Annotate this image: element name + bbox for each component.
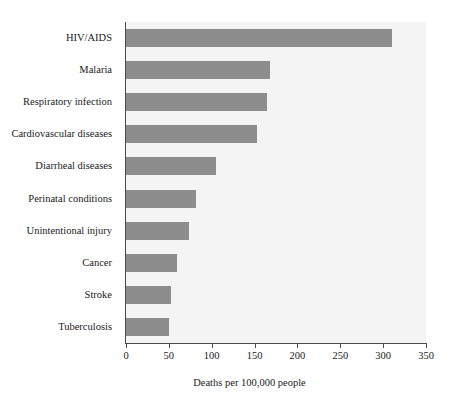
tick-mark <box>340 343 341 348</box>
category-label: Cancer <box>82 257 112 269</box>
bars-layer <box>126 22 426 343</box>
bar-row <box>126 311 426 343</box>
category-label: Stroke <box>85 289 112 301</box>
bar <box>126 157 216 175</box>
category-label: Malaria <box>79 64 112 76</box>
category-labels: HIV/AIDSMalariaRespiratory infectionCard… <box>0 22 120 343</box>
x-axis-title: Deaths per 100,000 people <box>0 376 475 389</box>
tick-label: 150 <box>247 350 263 362</box>
bar <box>126 286 171 304</box>
category-label: HIV/AIDS <box>66 32 112 44</box>
y-axis-spine <box>125 22 126 343</box>
tick-mark <box>212 343 213 348</box>
bar <box>126 61 270 79</box>
category-label: Perinatal conditions <box>28 193 112 205</box>
bar-row <box>126 183 426 215</box>
bar-row <box>126 247 426 279</box>
bar <box>126 93 267 111</box>
tick-mark <box>255 343 256 348</box>
bar-row <box>126 279 426 311</box>
tick-label: 100 <box>204 350 220 362</box>
bar <box>126 318 169 336</box>
bar <box>126 125 257 143</box>
bar <box>126 190 196 208</box>
bar-row <box>126 22 426 54</box>
x-axis-title-text: Deaths per 100,000 people <box>193 376 306 389</box>
category-label: Respiratory infection <box>23 96 112 108</box>
bar-row <box>126 215 426 247</box>
bar-row <box>126 118 426 150</box>
tick-mark <box>297 343 298 348</box>
bar <box>126 254 177 272</box>
bar-row <box>126 54 426 86</box>
category-label: Cardiovascular diseases <box>11 128 112 140</box>
tick-mark <box>126 343 127 348</box>
category-label: Diarrheal diseases <box>35 160 112 172</box>
tick-mark <box>383 343 384 348</box>
bar-chart: HIV/AIDSMalariaRespiratory infectionCard… <box>0 0 475 407</box>
tick-label: 200 <box>290 350 306 362</box>
category-label: Unintentional injury <box>27 225 112 237</box>
bar-row <box>126 150 426 182</box>
tick-label: 350 <box>418 350 434 362</box>
category-label: Tuberculosis <box>58 321 112 333</box>
tick-label: 300 <box>375 350 391 362</box>
tick-label: 250 <box>332 350 348 362</box>
bar <box>126 222 189 240</box>
bar-row <box>126 86 426 118</box>
tick-label: 0 <box>123 350 128 362</box>
bar <box>126 29 392 47</box>
tick-mark <box>169 343 170 348</box>
tick-label: 50 <box>164 350 175 362</box>
tick-mark <box>426 343 427 348</box>
